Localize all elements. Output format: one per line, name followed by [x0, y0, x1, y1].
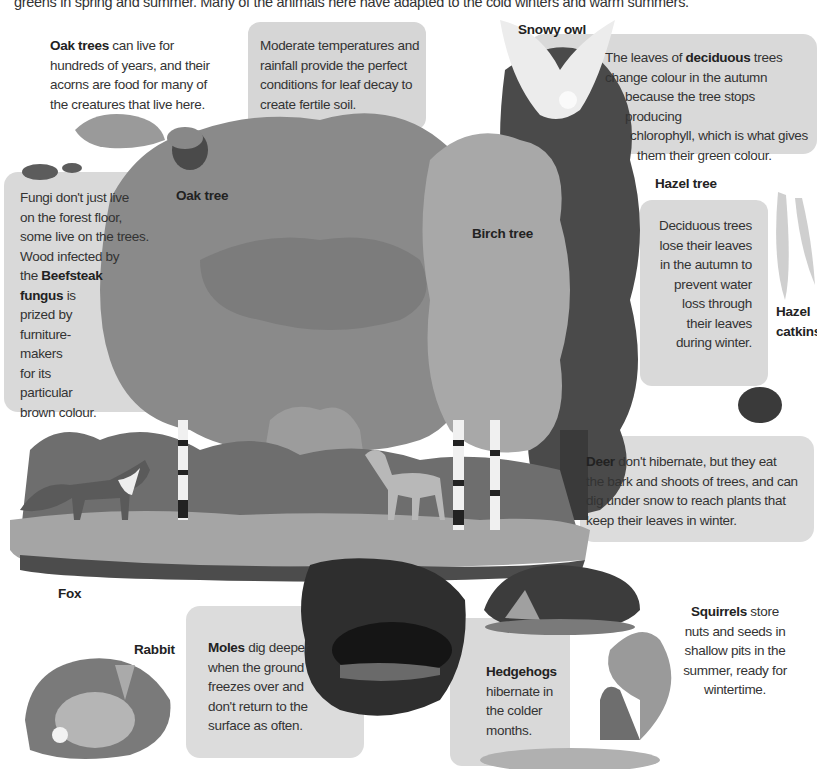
label-fox: Fox [58, 586, 81, 601]
label-rabbit: Rabbit [134, 642, 175, 657]
caption-squirrels: Squirrels store nuts and seeds in shallo… [680, 602, 790, 700]
label-hazel-tree: Hazel tree [655, 176, 717, 191]
label-birch-tree: Birch tree [472, 226, 533, 241]
caption-oak-trees: Oak trees can live for hundreds of years… [50, 36, 240, 114]
caption-deer: Deer don't hibernate, but they eat the b… [586, 452, 811, 530]
caption-fertile-soil: Moderate temperatures and rainfall provi… [260, 36, 430, 114]
caption-moles: Moles dig deeper when the ground freezes… [208, 638, 338, 736]
label-oak-tree: Oak tree [176, 188, 228, 203]
label-hazel-catkins: Hazel catkins [776, 302, 817, 342]
caption-hedgehogs: Hedgehogs hibernate in the colder months… [486, 662, 576, 740]
label-snowy-owl: Snowy owl [518, 22, 586, 37]
caption-lose-leaves: Deciduous trees lose their leaves in the… [640, 216, 752, 353]
caption-fungi: Fungi don't just live on the forest floo… [20, 188, 170, 422]
caption-deciduous-colour: The leaves of deciduous trees change col… [605, 48, 815, 165]
